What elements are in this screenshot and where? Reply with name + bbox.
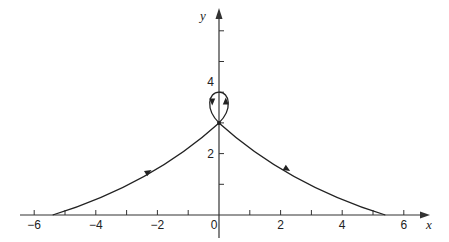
- chart: −6−4−2024624 x y: [0, 0, 449, 242]
- right-branch: [219, 123, 385, 215]
- x-axis-label: x: [425, 217, 432, 232]
- crossing-point: [217, 121, 221, 125]
- x-tick-label: 2: [277, 218, 284, 232]
- plot-area: −6−4−2024624 x y: [0, 0, 449, 242]
- x-tick-label: 4: [339, 218, 346, 232]
- x-tick-label: 6: [400, 218, 407, 232]
- x-tick-label: 0: [211, 218, 218, 232]
- x-tick-label: −6: [27, 218, 41, 232]
- y-axis-arrowhead-icon: [216, 8, 223, 19]
- y-tick-label: 4: [207, 75, 214, 89]
- y-tick-label: 2: [207, 147, 214, 161]
- ticks: −6−4−2024624: [27, 31, 407, 232]
- axes: [20, 8, 430, 238]
- y-axis-label: y: [198, 8, 206, 23]
- direction-arrows: [144, 97, 292, 176]
- x-tick-label: −4: [89, 218, 103, 232]
- x-tick-label: −2: [151, 218, 165, 232]
- left-branch: [53, 123, 219, 215]
